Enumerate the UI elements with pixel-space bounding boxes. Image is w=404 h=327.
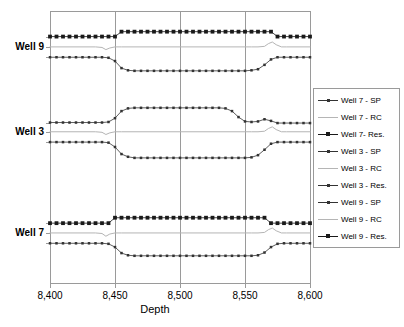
data-point-marker	[153, 255, 156, 257]
data-point-marker	[139, 30, 143, 34]
data-point-marker	[101, 141, 104, 144]
data-point-marker	[48, 221, 52, 225]
data-point-marker	[211, 70, 214, 73]
data-point-marker	[276, 122, 279, 125]
legend-item[interactable]: Well 3 - RC	[314, 160, 399, 177]
legend-key-icon	[318, 146, 338, 157]
data-point-marker	[133, 107, 136, 110]
data-point-marker	[87, 35, 91, 39]
data-point-marker	[127, 107, 130, 110]
data-point-marker	[166, 70, 169, 73]
data-point-marker	[81, 221, 85, 225]
chart-container: Well 9Well 3Well 7 8,4008,4508,5008,5508…	[0, 0, 404, 327]
legend-item-label: Well 9 - Res.	[341, 231, 387, 242]
data-point-marker	[120, 216, 124, 220]
data-point-marker	[256, 216, 260, 220]
data-point-marker	[140, 255, 143, 257]
data-point-marker	[231, 157, 234, 160]
data-point-marker	[198, 157, 201, 160]
data-point-marker	[153, 157, 156, 160]
data-point-marker	[283, 242, 286, 245]
data-point-marker	[289, 122, 292, 125]
data-point-marker	[205, 70, 208, 73]
data-point-marker	[231, 255, 234, 257]
legend-item[interactable]: Well 7- Res.	[314, 126, 399, 143]
data-point-marker	[192, 70, 195, 73]
data-point-marker	[107, 141, 110, 144]
data-point-marker	[263, 64, 266, 67]
data-point-marker	[101, 56, 104, 59]
legend-item-label: Well 9 - SP	[341, 197, 381, 208]
data-point-marker	[276, 35, 280, 39]
data-point-marker	[217, 30, 221, 34]
data-point-marker	[256, 30, 260, 34]
legend-item[interactable]: Well 3 - SP	[314, 143, 399, 160]
data-point-marker	[159, 70, 162, 73]
legend-item-label: Well 7 - RC	[341, 112, 382, 123]
data-point-marker	[87, 221, 91, 225]
legend-item[interactable]: Well 9 - RC	[314, 211, 399, 228]
legend-item-label: Well 7- Res.	[341, 129, 384, 140]
data-point-marker	[257, 154, 260, 157]
legend-item[interactable]: Well 7 - RC	[314, 109, 399, 126]
data-point-marker	[101, 242, 104, 245]
data-point-marker	[309, 122, 312, 125]
data-point-marker	[296, 56, 299, 59]
data-point-marker	[224, 30, 228, 34]
data-point-marker	[113, 35, 117, 39]
legend-key-icon	[318, 180, 338, 191]
data-point-marker	[198, 107, 201, 110]
data-point-marker	[62, 242, 65, 245]
data-point-marker	[61, 221, 65, 225]
data-point-marker	[139, 216, 143, 220]
legend-item[interactable]: Well 9 - Res.	[314, 228, 399, 245]
data-point-marker	[250, 121, 253, 124]
data-point-marker	[302, 221, 306, 225]
data-point-marker	[146, 107, 149, 110]
data-point-marker	[296, 141, 299, 144]
data-point-marker	[49, 56, 52, 59]
data-point-marker	[172, 70, 175, 73]
data-point-marker	[133, 30, 137, 34]
data-point-marker	[217, 216, 221, 220]
data-point-marker	[283, 122, 286, 125]
data-point-marker	[231, 110, 234, 113]
data-point-marker	[270, 142, 273, 145]
legend-item[interactable]: Well 3 - Res.	[314, 177, 399, 194]
data-point-marker	[120, 252, 123, 255]
data-point-marker	[165, 30, 169, 34]
data-point-marker	[152, 30, 156, 34]
data-point-marker	[250, 255, 253, 257]
data-point-marker	[185, 216, 189, 220]
data-point-marker	[263, 118, 266, 121]
data-point-marker	[55, 141, 58, 144]
data-point-marker	[146, 255, 149, 257]
data-point-marker	[114, 117, 117, 120]
data-point-marker	[205, 157, 208, 160]
data-point-marker	[126, 216, 130, 220]
data-point-marker	[296, 242, 299, 245]
data-point-marker	[237, 157, 240, 160]
data-point-marker	[81, 141, 84, 144]
data-point-marker	[120, 153, 123, 156]
data-point-marker	[192, 157, 195, 160]
data-point-marker	[270, 246, 273, 249]
data-point-marker	[289, 35, 293, 39]
data-point-marker	[159, 216, 163, 220]
y-axis-label-well-7: Well 7	[0, 227, 44, 238]
data-point-marker	[74, 221, 78, 225]
data-point-marker	[100, 35, 104, 39]
data-point-marker	[146, 70, 149, 73]
legend-item-label: Well 9 - RC	[341, 214, 382, 225]
data-point-marker	[159, 255, 162, 257]
data-point-marker	[191, 216, 195, 220]
data-point-marker	[230, 30, 234, 34]
data-point-marker	[211, 107, 214, 110]
data-point-marker	[302, 56, 305, 59]
data-point-marker	[68, 141, 71, 144]
legend-item[interactable]: Well 9 - SP	[314, 194, 399, 211]
data-point-marker	[224, 157, 227, 160]
legend-item[interactable]: Well 7 - SP	[314, 92, 399, 109]
data-point-marker	[166, 107, 169, 110]
y-axis-label-well-9: Well 9	[0, 41, 44, 52]
